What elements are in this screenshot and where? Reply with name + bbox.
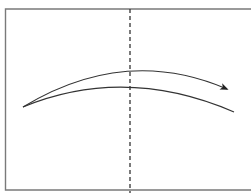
fold-diagram	[0, 0, 251, 193]
fold-arrow-icon	[23, 71, 227, 107]
